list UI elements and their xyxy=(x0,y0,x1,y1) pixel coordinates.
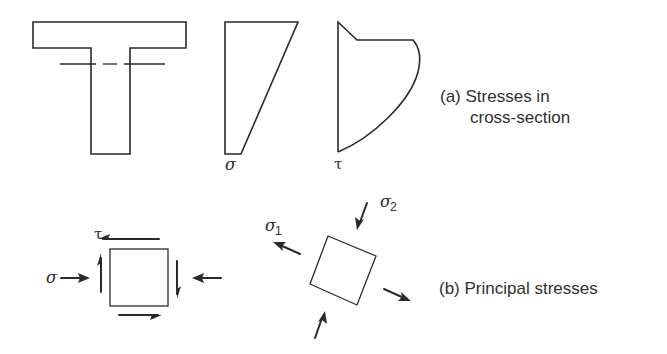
svg-text:1: 1 xyxy=(275,224,282,238)
sigma-label: σ xyxy=(225,155,237,174)
shear-arrow-bottom xyxy=(150,315,162,320)
tau-label: τ xyxy=(334,155,342,173)
stress-element: τ σ xyxy=(46,225,221,320)
caption-part-a-line1: (a) Stresses in xyxy=(440,87,550,106)
t-beam-cross-section xyxy=(33,22,186,154)
caption-part-b-text: (b) Principal stresses xyxy=(439,279,598,298)
svg-text:2: 2 xyxy=(390,200,397,214)
sigma2-arrow-bottom xyxy=(318,311,327,324)
element-sigma-label: σ xyxy=(46,268,58,287)
sigma2-arrow-top xyxy=(355,217,364,230)
caption-part-a-line2: cross-section xyxy=(440,107,570,128)
principal-stress-element: σ 1 σ 2 xyxy=(265,192,411,338)
shear-stress-diagram: τ xyxy=(334,22,420,173)
caption-part-a: (a) Stresses in cross-section xyxy=(440,86,570,128)
normal-stress-diagram: σ xyxy=(225,22,298,174)
sigma2-label: σ 2 xyxy=(380,192,397,214)
stress-diagram: σ τ τ σ σ xyxy=(0,0,667,354)
caption-part-b: (b) Principal stresses xyxy=(439,278,598,299)
element-tau-label: τ xyxy=(94,225,102,243)
sigma1-label: σ 1 xyxy=(265,216,282,238)
